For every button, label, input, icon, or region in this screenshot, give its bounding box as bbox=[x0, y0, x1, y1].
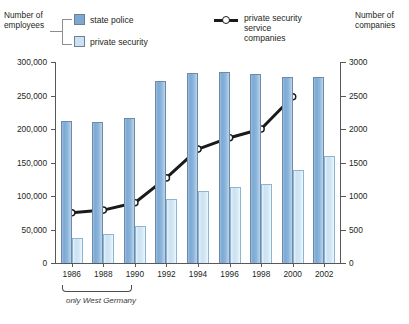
bar-private-security bbox=[261, 184, 272, 263]
x-axis-label: 1988 bbox=[94, 269, 112, 279]
bar-private-security bbox=[72, 238, 83, 263]
west-germany-bracket bbox=[62, 285, 132, 292]
x-axis-tick bbox=[261, 263, 262, 267]
y2-axis-label: 1000 bbox=[349, 191, 367, 201]
x-axis-tick bbox=[103, 263, 104, 267]
x-axis-label: 2002 bbox=[315, 269, 333, 279]
y2-axis-tick bbox=[341, 96, 346, 97]
bar-state-police bbox=[313, 77, 324, 263]
y2-axis-tick bbox=[341, 129, 346, 130]
y2-axis-tick bbox=[341, 196, 346, 197]
y-axis-tick bbox=[51, 96, 56, 97]
y2-axis-tick bbox=[341, 263, 346, 264]
legend-bracket bbox=[62, 19, 72, 45]
bar-private-security bbox=[103, 234, 114, 263]
bar-state-police bbox=[250, 74, 261, 263]
x-axis-label: 1994 bbox=[189, 269, 207, 279]
y2-axis-label: 2000 bbox=[349, 124, 367, 134]
y2-axis-label: 1500 bbox=[349, 158, 367, 168]
y-axis-label: 50,000 bbox=[0, 225, 47, 235]
y2-axis-label: 500 bbox=[349, 225, 363, 235]
x-axis-label: 1992 bbox=[157, 269, 175, 279]
x-axis-tick bbox=[166, 263, 167, 267]
bar-private-security bbox=[324, 156, 335, 263]
y-axis-label: 100,000 bbox=[0, 191, 47, 201]
x-axis-tick bbox=[135, 263, 136, 267]
y-axis-label: 150,000 bbox=[0, 158, 47, 168]
private-security-swatch-icon bbox=[74, 36, 85, 47]
bar-state-police bbox=[61, 121, 72, 263]
plot-area bbox=[56, 62, 340, 263]
bar-private-security bbox=[198, 191, 209, 263]
x-axis-tick bbox=[230, 263, 231, 267]
state-police-swatch-icon bbox=[74, 14, 85, 25]
legend-label-companies: private security service companies bbox=[244, 14, 302, 43]
bar-private-security bbox=[166, 199, 177, 263]
x-axis-tick bbox=[72, 263, 73, 267]
y-axis-tick bbox=[51, 230, 56, 231]
y2-axis-tick bbox=[341, 62, 346, 63]
bar-state-police bbox=[282, 77, 293, 263]
x-axis-tick bbox=[324, 263, 325, 267]
legend-item-companies: private security service companies bbox=[214, 14, 302, 43]
y-axis-tick bbox=[51, 263, 56, 264]
x-axis-tick bbox=[198, 263, 199, 267]
bar-state-police bbox=[187, 73, 198, 263]
y-axis-tick bbox=[51, 129, 56, 130]
x-axis-label: 2000 bbox=[283, 269, 301, 279]
legend-item-private-security: private security bbox=[74, 36, 148, 47]
x-axis-label: 1986 bbox=[63, 269, 81, 279]
y-axis-tick bbox=[51, 196, 56, 197]
y2-axis-label: 2500 bbox=[349, 91, 367, 101]
line-marker-icon bbox=[214, 15, 238, 26]
y-axis-label: 300,000 bbox=[0, 57, 47, 67]
y2-axis-tick bbox=[341, 230, 346, 231]
bar-state-police bbox=[124, 118, 135, 263]
x-axis-label: 1996 bbox=[220, 269, 238, 279]
legend-label-state-police: state police bbox=[90, 15, 133, 25]
left-axis-title: Number of employees bbox=[4, 11, 44, 30]
x-axis-tick bbox=[293, 263, 294, 267]
y2-axis-label: 3000 bbox=[349, 57, 367, 67]
y-axis-label: 200,000 bbox=[0, 124, 47, 134]
bar-private-security bbox=[135, 226, 146, 263]
legend-item-state-police: state police bbox=[74, 14, 133, 25]
right-axis-title: Number of companies bbox=[355, 11, 395, 30]
y-axis-label: 250,000 bbox=[0, 91, 47, 101]
west-germany-note: only West Germany bbox=[62, 296, 140, 305]
bar-private-security bbox=[230, 187, 241, 263]
x-axis-label: 1990 bbox=[126, 269, 144, 279]
bar-state-police bbox=[219, 72, 230, 263]
y-axis-tick bbox=[51, 62, 56, 63]
x-axis-label: 1998 bbox=[252, 269, 270, 279]
y-axis-label: 0 bbox=[0, 258, 47, 268]
bar-state-police bbox=[155, 81, 166, 263]
y2-axis-label: 0 bbox=[349, 258, 354, 268]
bar-private-security bbox=[293, 170, 304, 263]
legend-label-private-security: private security bbox=[90, 37, 148, 47]
y-axis-tick bbox=[51, 163, 56, 164]
bar-state-police bbox=[92, 122, 103, 263]
y2-axis-tick bbox=[341, 163, 346, 164]
